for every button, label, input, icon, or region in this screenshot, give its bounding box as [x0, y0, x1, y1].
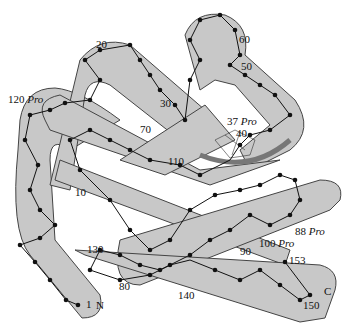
- label-residue-40: 40: [236, 127, 248, 139]
- label-residue-90: 90: [240, 245, 252, 257]
- label-residue-20: 20: [96, 38, 108, 50]
- label-residue-1: 1: [86, 298, 92, 310]
- helix-tubes: [16, 14, 341, 322]
- label-residue-70: 70: [140, 123, 152, 135]
- label-residue-30: 30: [160, 97, 172, 109]
- label-pro-100: 100 Pro: [259, 237, 295, 249]
- label-c-terminus: C: [324, 285, 331, 297]
- label-residue-153: 153: [289, 254, 306, 266]
- protein-diagram: 1 10 20 30 40 50 60 70 80 90 110 130 140…: [0, 0, 345, 331]
- label-pro-37: 37 Pro: [227, 115, 257, 127]
- label-residue-10: 10: [75, 186, 87, 198]
- label-residue-140: 140: [178, 289, 195, 301]
- label-pro-88: 88 Pro: [295, 225, 325, 237]
- label-residue-60: 60: [239, 33, 251, 45]
- label-residue-50: 50: [241, 60, 253, 72]
- label-n-terminus: N: [96, 299, 104, 311]
- label-residue-80: 80: [119, 280, 131, 292]
- label-residue-130: 130: [87, 243, 104, 255]
- label-residue-110: 110: [168, 155, 185, 167]
- label-pro-120: 120 Pro: [8, 93, 44, 105]
- label-residue-150: 150: [303, 299, 320, 311]
